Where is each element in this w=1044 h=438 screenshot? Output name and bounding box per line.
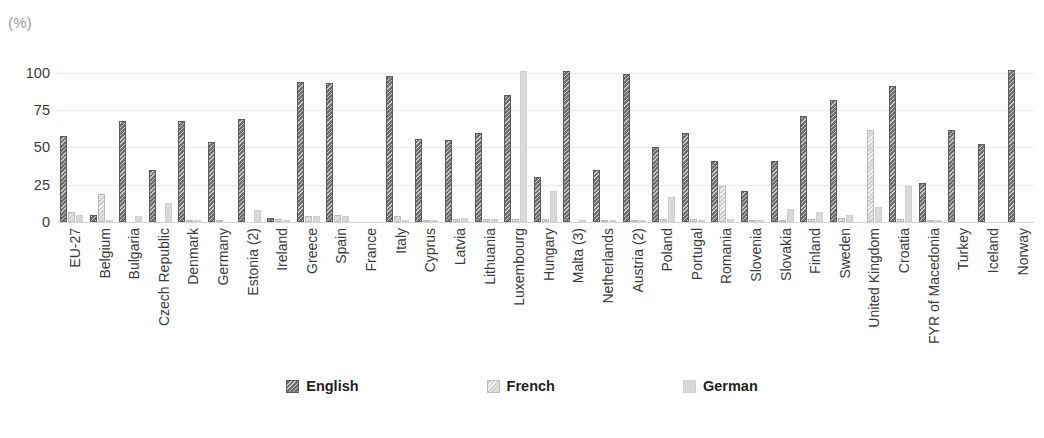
bar-french[interactable] xyxy=(423,220,430,222)
bar-french[interactable] xyxy=(394,216,401,222)
bar-german[interactable] xyxy=(639,220,646,222)
bar-german[interactable] xyxy=(194,220,201,222)
bar-german[interactable] xyxy=(313,216,320,222)
bar-english[interactable] xyxy=(563,71,570,222)
bar-german[interactable] xyxy=(550,191,557,222)
bar-french[interactable] xyxy=(749,220,756,222)
bar-english[interactable] xyxy=(178,121,185,222)
bar-english[interactable] xyxy=(119,121,126,222)
bar-german[interactable] xyxy=(579,220,586,222)
bar-french[interactable] xyxy=(186,220,193,222)
bar-french[interactable] xyxy=(631,220,638,222)
bar-german[interactable] xyxy=(431,220,438,222)
bar-french[interactable] xyxy=(927,220,934,222)
bar-french[interactable] xyxy=(453,219,460,222)
x-label-cell: Latvia xyxy=(442,224,472,360)
bar-english[interactable] xyxy=(297,82,304,222)
bar-french[interactable] xyxy=(305,216,312,222)
x-axis-label: FYR of Macedonia xyxy=(927,228,941,344)
bar-french[interactable] xyxy=(897,219,904,222)
bar-english[interactable] xyxy=(475,133,482,222)
bar-english[interactable] xyxy=(652,147,659,222)
bar-english[interactable] xyxy=(623,74,630,222)
bar-german[interactable] xyxy=(935,220,942,222)
bar-french[interactable] xyxy=(719,186,726,222)
bar-german[interactable] xyxy=(135,216,142,222)
bar-english[interactable] xyxy=(445,140,452,222)
chart-legend: EnglishFrenchGerman xyxy=(0,378,1044,394)
bar-english[interactable] xyxy=(90,215,97,222)
bar-german[interactable] xyxy=(165,203,172,222)
bar-german[interactable] xyxy=(402,220,409,222)
bar-german[interactable] xyxy=(609,220,616,222)
bar-german[interactable] xyxy=(342,216,349,222)
bar-english[interactable] xyxy=(741,191,748,222)
bar-english[interactable] xyxy=(978,144,985,222)
bar-french[interactable] xyxy=(334,215,341,222)
bar-english[interactable] xyxy=(919,183,926,222)
bar-german[interactable] xyxy=(668,197,675,222)
bar-french[interactable] xyxy=(601,220,608,222)
bar-english[interactable] xyxy=(534,177,541,222)
bar-english[interactable] xyxy=(267,218,274,222)
bar-french[interactable] xyxy=(542,219,549,222)
bar-french[interactable] xyxy=(690,219,697,222)
bar-english[interactable] xyxy=(830,100,837,222)
bar-french[interactable] xyxy=(867,130,874,222)
x-axis-label: EU-27 xyxy=(68,228,82,268)
bar-english[interactable] xyxy=(238,119,245,222)
bar-group xyxy=(797,58,827,222)
bar-english[interactable] xyxy=(60,136,67,222)
bar-english[interactable] xyxy=(771,161,778,222)
legend-item-english[interactable]: English xyxy=(286,378,358,394)
bar-english[interactable] xyxy=(800,116,807,222)
bar-english[interactable] xyxy=(386,76,393,222)
bar-english[interactable] xyxy=(948,130,955,222)
bar-french[interactable] xyxy=(483,219,490,222)
bar-german[interactable] xyxy=(491,219,498,222)
bar-german[interactable] xyxy=(905,186,912,222)
bar-german[interactable] xyxy=(727,219,734,222)
x-label-cell: Romania xyxy=(708,224,738,360)
bar-german[interactable] xyxy=(106,220,113,222)
bar-group xyxy=(294,58,324,222)
bar-german[interactable] xyxy=(254,210,261,222)
bar-german[interactable] xyxy=(875,207,882,222)
bar-english[interactable] xyxy=(889,86,896,222)
bar-german[interactable] xyxy=(461,218,468,222)
bar-english[interactable] xyxy=(593,170,600,222)
bar-english[interactable] xyxy=(415,139,422,222)
bar-french[interactable] xyxy=(68,212,75,222)
bar-french[interactable] xyxy=(779,220,786,222)
bar-german[interactable] xyxy=(283,220,290,222)
bar-french[interactable] xyxy=(275,219,282,222)
bar-french[interactable] xyxy=(838,218,845,222)
bar-english[interactable] xyxy=(326,83,333,222)
bar-german[interactable] xyxy=(520,71,527,222)
legend-label-french: French xyxy=(507,378,555,394)
bar-german[interactable] xyxy=(698,220,705,222)
x-axis-label: Ireland xyxy=(275,228,289,271)
bar-english[interactable] xyxy=(1008,70,1015,222)
legend-item-french[interactable]: French xyxy=(487,378,555,394)
legend-item-german[interactable]: German xyxy=(683,378,758,394)
bar-english[interactable] xyxy=(682,133,689,222)
bar-french[interactable] xyxy=(98,194,105,222)
x-axis-label: Netherlands xyxy=(601,228,615,304)
x-label-cell: Hungary xyxy=(531,224,561,360)
bar-english[interactable] xyxy=(504,95,511,222)
bar-english[interactable] xyxy=(208,142,215,223)
bar-german[interactable] xyxy=(787,209,794,222)
bar-french[interactable] xyxy=(512,219,519,222)
bar-french[interactable] xyxy=(808,219,815,222)
bar-french[interactable] xyxy=(660,219,667,222)
bar-group xyxy=(856,58,886,222)
bar-german[interactable] xyxy=(846,215,853,222)
x-axis-label: Lithuania xyxy=(483,228,497,285)
bar-french[interactable] xyxy=(216,220,223,222)
bar-english[interactable] xyxy=(149,170,156,222)
bar-german[interactable] xyxy=(76,215,83,222)
bar-german[interactable] xyxy=(816,212,823,222)
bar-english[interactable] xyxy=(711,161,718,222)
bar-german[interactable] xyxy=(757,220,764,222)
